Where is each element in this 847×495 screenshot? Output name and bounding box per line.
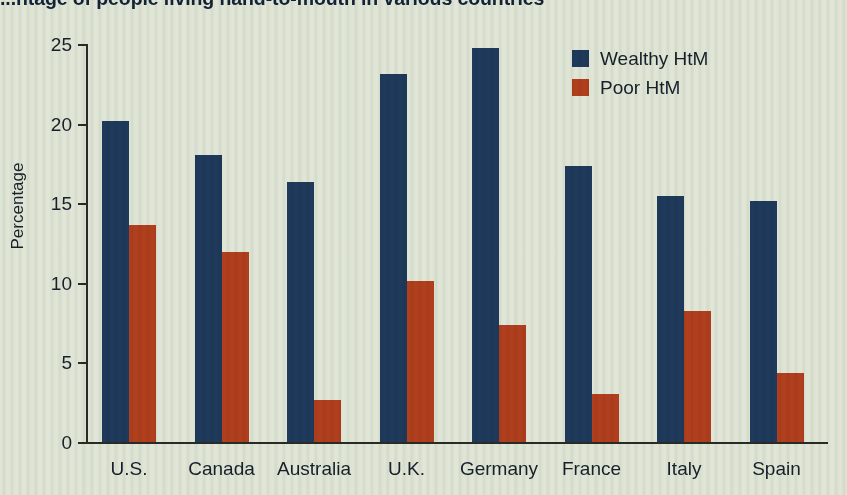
legend-item: Poor HtM <box>572 73 708 102</box>
bar-wealthy <box>657 196 684 443</box>
chart-legend: Wealthy HtMPoor HtM <box>572 44 708 102</box>
x-tick-label: Italy <box>667 458 702 480</box>
bar-poor <box>314 400 341 443</box>
x-tick-label: Australia <box>277 458 351 480</box>
bar-poor <box>129 225 156 443</box>
x-axis-baseline <box>86 442 828 444</box>
legend-swatch-wealthy-icon <box>572 50 589 67</box>
bar-poor <box>684 311 711 443</box>
y-tick-mark <box>78 442 87 444</box>
legend-swatch-poor-icon <box>572 79 589 96</box>
bar-poor <box>407 281 434 443</box>
bar-wealthy <box>287 182 314 443</box>
y-tick-label: 5 <box>18 352 72 374</box>
y-tick-mark <box>78 283 87 285</box>
x-tick-label: Germany <box>460 458 538 480</box>
bar-poor <box>777 373 804 443</box>
legend-label: Poor HtM <box>600 77 680 99</box>
legend-item: Wealthy HtM <box>572 44 708 73</box>
bar-wealthy <box>380 74 407 443</box>
legend-label: Wealthy HtM <box>600 48 708 70</box>
bar-wealthy <box>472 48 499 443</box>
bar-wealthy <box>195 155 222 443</box>
x-tick-label: Spain <box>752 458 801 480</box>
bar-poor <box>222 252 249 443</box>
plot-area <box>88 45 828 443</box>
y-tick-mark <box>78 362 87 364</box>
x-tick-label: U.K. <box>388 458 425 480</box>
y-tick-mark <box>78 203 87 205</box>
bar-chart-figure: ...ntage of people living hand-to-mouth … <box>0 0 847 495</box>
y-tick-mark <box>78 44 87 46</box>
y-tick-mark <box>78 124 87 126</box>
y-tick-label: 25 <box>18 34 72 56</box>
x-tick-label: U.S. <box>111 458 148 480</box>
bar-wealthy <box>102 121 129 443</box>
y-tick-label: 0 <box>18 432 72 454</box>
bar-wealthy <box>565 166 592 443</box>
y-axis-spine <box>86 44 88 444</box>
y-tick-label: 20 <box>18 114 72 136</box>
x-tick-label: France <box>562 458 621 480</box>
y-tick-label: 15 <box>18 193 72 215</box>
bar-poor <box>499 325 526 443</box>
x-tick-label: Canada <box>188 458 255 480</box>
y-tick-label: 10 <box>18 273 72 295</box>
bar-wealthy <box>750 201 777 443</box>
bar-poor <box>592 394 619 443</box>
page-title: ...ntage of people living hand-to-mouth … <box>0 0 847 10</box>
